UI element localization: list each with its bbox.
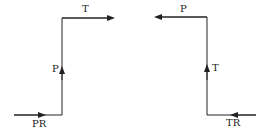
right-path [156, 17, 256, 115]
left-input-label: PR [32, 119, 46, 129]
left-vertical-label: P [52, 64, 59, 74]
diagram-canvas: PR P T TR T P [0, 0, 266, 133]
path-diagram [0, 0, 266, 133]
right-input-label: TR [226, 118, 240, 128]
right-output-label: P [180, 4, 187, 14]
left-output-label: T [82, 4, 89, 14]
left-path [14, 18, 113, 115]
right-vertical-label: T [212, 63, 219, 73]
